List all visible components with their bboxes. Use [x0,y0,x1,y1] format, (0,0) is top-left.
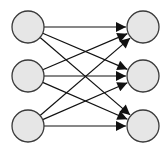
node-R2 [127,60,159,92]
edges-group [40,27,130,126]
node-R1 [127,11,159,43]
node-L3 [12,110,44,142]
bipartite-diagram [0,0,168,151]
node-R3 [127,110,159,142]
node-L1 [12,11,44,43]
node-L2 [12,60,44,92]
